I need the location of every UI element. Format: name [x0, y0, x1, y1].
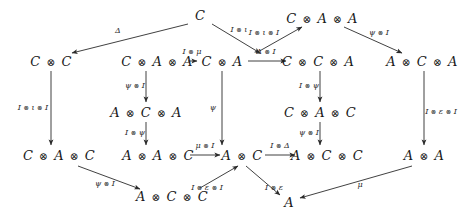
- arrow-label-e-i-psi-colC: I ⊗ ψ: [299, 82, 319, 90]
- arrow-label-e-i-eps: I ⊗ ε: [265, 184, 283, 192]
- node-n-cca: C ⊗ C ⊗ A: [282, 55, 354, 68]
- arrow-e-delta: [72, 24, 188, 53]
- node-n-cc: C ⊗ C: [30, 55, 71, 68]
- arrow-label-e-i-delta: I ⊗ Δ: [270, 142, 289, 150]
- node-n-a-bot: A: [284, 196, 294, 209]
- node-n-cac: C ⊗ A ⊗ C: [284, 106, 356, 119]
- arrow-label-e-i-iota: I ⊗ ι: [231, 26, 248, 34]
- arrow-label-e-psi-i-colC: ψ ⊗ I: [299, 129, 319, 137]
- arrow-label-e-psi-i-colA: ψ ⊗ I: [125, 82, 145, 90]
- node-n-aa: A ⊗ A: [404, 149, 444, 162]
- node-n-cac-left: C ⊗ A ⊗ C: [23, 149, 95, 162]
- arrow-label-e-psi-vert: ψ: [210, 104, 216, 112]
- arrow-label-e-i-psi-colA: I ⊗ ψ: [125, 129, 145, 137]
- node-n-ac: A ⊗ C: [222, 149, 263, 162]
- arrow-e-mu-bot: [300, 166, 412, 198]
- node-n-caa-top: C ⊗ A ⊗ A: [286, 12, 358, 25]
- node-n-aca-mid: A ⊗ C ⊗ A: [110, 106, 182, 119]
- node-n-acc-right: A ⊗ C ⊗ C: [291, 149, 363, 162]
- arrow-label-e-psi-i-top: ψ ⊗ I: [369, 29, 389, 37]
- arrow-label-e-delta: Δ: [115, 27, 121, 35]
- arrow-label-e-i-eps-i-bot: I ⊗ ε ⊗ I: [191, 184, 223, 192]
- arrow-label-e-i-iota-i-left: I ⊗ ι ⊗ I: [18, 104, 49, 112]
- node-n-ca: C ⊗ A: [202, 55, 243, 68]
- arrow-label-e-mu-i: μ ⊗ I: [196, 142, 215, 150]
- arrow-label-e-i-iota-i: I ⊗ ι ⊗ I: [249, 29, 280, 37]
- node-n-caa-mid: C ⊗ A ⊗ A: [121, 55, 193, 68]
- node-n-aac: A ⊗ A ⊗ C: [122, 149, 194, 162]
- node-n-c-top: C: [195, 9, 205, 22]
- arrow-label-e-i-mu: I ⊗ μ: [183, 48, 202, 56]
- node-n-aca-right: A ⊗ C ⊗ A: [386, 55, 458, 68]
- arrow-label-e-mu-bot: μ: [357, 181, 362, 189]
- arrow-label-e-psi-i-bot: ψ ⊗ I: [95, 180, 115, 188]
- commutative-diagram: CC ⊗ A ⊗ AC ⊗ CC ⊗ A ⊗ AC ⊗ AC ⊗ C ⊗ AA …: [0, 0, 468, 222]
- arrow-label-e-i-eps-i-right: I ⊗ ε ⊗ I: [425, 108, 457, 116]
- arrow-label-e-delta-i: Δ ⊗ I: [256, 48, 275, 56]
- arrow-group: [51, 24, 424, 198]
